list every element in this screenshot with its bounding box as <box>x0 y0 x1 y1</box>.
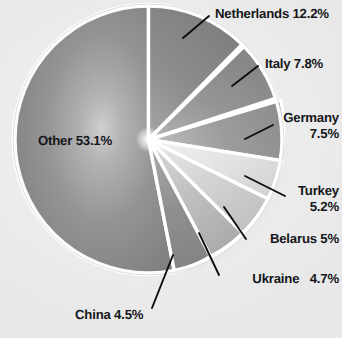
pie-label-germany: Germany 7.5% <box>219 110 339 142</box>
pie-label-ukraine-value: 4.7% <box>310 271 339 286</box>
pie-label-netherlands: Netherlands 12.2% <box>215 6 329 22</box>
pie-chart-figure <box>0 0 342 338</box>
pie-label-turkey-name: Turkey <box>298 183 339 198</box>
pie-label-turkey-value: 5.2% <box>310 199 339 214</box>
pie-label-ukraine: Ukraine 4.7% <box>159 271 339 287</box>
pie-label-italy: Italy 7.8% <box>265 56 323 72</box>
pie-label-china: China 4.5% <box>75 307 143 323</box>
pie-label-germany-value: 7.5% <box>310 126 339 141</box>
pie-label-turkey: Turkey 5.2% <box>219 183 339 215</box>
pie-label-germany-name: Germany <box>283 110 339 125</box>
chart-canvas: Netherlands 12.2% Italy 7.8% Germany 7.5… <box>0 0 342 338</box>
pie-label-belarus: Belarus 5% <box>189 231 339 247</box>
pie-hub-highlight <box>136 127 162 153</box>
pie-label-other: Other 53.1% <box>38 133 112 149</box>
pie-label-ukraine-name: Ukraine <box>252 271 299 286</box>
